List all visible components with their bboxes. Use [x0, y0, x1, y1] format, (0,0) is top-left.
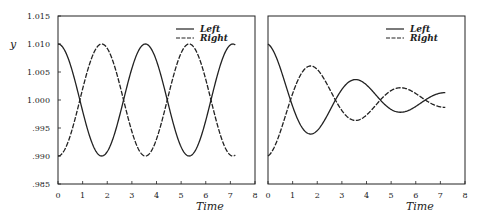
x-tick-label: 8: [462, 191, 467, 200]
y-tick-label: .985: [32, 180, 50, 189]
x-tick-label: 4: [364, 191, 369, 200]
y-tick-label: .995: [32, 124, 50, 133]
x-tick-label: 7: [438, 191, 443, 200]
x-tick-label: 3: [339, 191, 344, 200]
x-tick-label: 0: [55, 191, 60, 200]
y-tick-label: 1.010: [27, 40, 50, 49]
plot-left-y-ticks: 1.0151.0101.0051.000.995.990.985: [27, 12, 61, 189]
x-tick-label: 0: [265, 191, 270, 200]
x-tick-label: 8: [252, 191, 257, 200]
y-tick-label: 1.000: [27, 96, 50, 105]
y-axis-label: y: [9, 38, 17, 51]
plot-right: 012345678 Left Right Time: [265, 16, 467, 213]
x-tick-label: 2: [315, 191, 320, 200]
legend-label-right: Right: [409, 33, 439, 43]
plot-left-series-left: [58, 44, 235, 156]
x-tick-label: 7: [228, 191, 233, 200]
x-tick-label: 5: [179, 191, 184, 200]
x-tick-label: 2: [105, 191, 110, 200]
plot-left: 012345678 1.0151.0101.0051.000.995.990.9…: [9, 12, 258, 213]
x-tick-label: 5: [389, 191, 394, 200]
plot-left-series-right: [58, 44, 235, 156]
plot-right-x-axis-label: Time: [406, 200, 434, 213]
x-tick-label: 6: [413, 191, 418, 200]
x-tick-label: 3: [129, 191, 134, 200]
x-tick-label: 1: [80, 191, 85, 200]
y-tick-label: 1.015: [27, 12, 50, 21]
x-tick-label: 6: [203, 191, 208, 200]
y-tick-label: 1.005: [27, 68, 50, 77]
plot-left-x-axis-label: Time: [196, 200, 224, 213]
y-tick-label: .990: [32, 152, 50, 161]
x-tick-label: 1: [290, 191, 295, 200]
plot-right-legend: Left Right: [386, 24, 439, 43]
plot-left-legend: Left Right: [176, 24, 229, 43]
chart-canvas: 012345678 1.0151.0101.0051.000.995.990.9…: [0, 0, 477, 218]
legend-label-right: Right: [199, 33, 229, 43]
x-tick-label: 4: [154, 191, 159, 200]
